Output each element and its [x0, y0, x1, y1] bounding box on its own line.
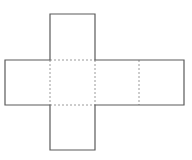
background [0, 0, 192, 160]
cube-net-diagram [0, 0, 192, 160]
